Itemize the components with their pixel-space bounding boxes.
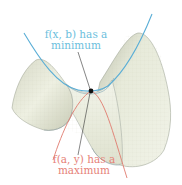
minimum-label: f(x, b) has a minimum [44,29,108,51]
saddle-diagram: f(x, b) has a minimum f(a, y) has a maxi… [0,0,182,185]
maximum-label-line2: maximum [52,165,116,176]
min-leader-line [78,52,90,89]
maximum-label: f(a, y) has a maximum [52,154,116,176]
minimum-label-line2: minimum [44,40,108,51]
saddle-point [89,89,94,94]
